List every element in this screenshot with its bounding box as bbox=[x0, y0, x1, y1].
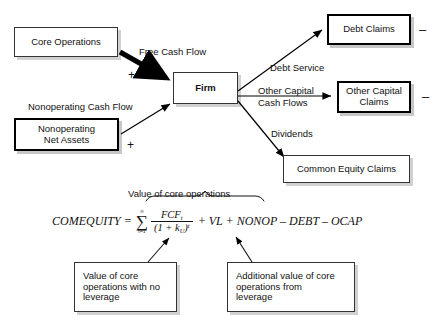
box-nonoperating-net-assets-line1: Nonoperating bbox=[38, 123, 95, 134]
formula-fraction: FCFt (1 + kU)t bbox=[151, 209, 193, 235]
box-common-equity-claims[interactable]: Common Equity Claims bbox=[283, 155, 410, 183]
arrow-debt-service bbox=[238, 30, 322, 91]
box-leverage-note-label: Additional value of core operations from… bbox=[236, 271, 335, 304]
caption-value-of-core-operations: Value of core operations bbox=[128, 188, 230, 199]
pointer-no-leverage bbox=[148, 238, 169, 262]
box-other-capital-claims-label: Other Capital Claims bbox=[346, 86, 402, 108]
box-other-capital-claims-line1: Other Capital bbox=[346, 85, 402, 96]
sign-minus-debt-claims: – bbox=[419, 22, 426, 37]
formula-equals: = bbox=[121, 214, 135, 229]
box-debt-claims-label: Debt Claims bbox=[343, 24, 395, 35]
label-other-capital-cash-flows-line1: Other Capital bbox=[258, 85, 314, 96]
box-common-equity-claims-label: Common Equity Claims bbox=[297, 164, 396, 175]
label-debt-service: Debt Service bbox=[270, 62, 324, 73]
box-leverage-note-line2: operations from bbox=[236, 281, 302, 292]
formula-comequity: COMEQUITY = ∞ ∑ t=1 FCFt (1 + kU)t + VL … bbox=[52, 209, 365, 235]
formula-numerator: FCFt bbox=[158, 209, 186, 221]
formula-numerator-text: FCF bbox=[161, 209, 181, 220]
formula-sum-lower: t=1 bbox=[138, 229, 145, 235]
box-leverage-note-line3: leverage bbox=[236, 291, 272, 302]
label-nonoperating-cash-flow: Nonoperating Cash Flow bbox=[28, 101, 133, 112]
sign-plus-nonoperating: + bbox=[127, 138, 134, 152]
formula-denominator-sup: t bbox=[188, 223, 190, 230]
box-leverage-note[interactable]: Additional value of core operations from… bbox=[227, 262, 355, 312]
box-debt-claims[interactable]: Debt Claims bbox=[327, 14, 411, 45]
box-core-operations-label: Core Operations bbox=[31, 37, 101, 48]
box-no-leverage-note-line2: operations with no bbox=[83, 281, 160, 292]
label-other-capital-cash-flows-line2: Cash Flows bbox=[258, 97, 308, 108]
box-firm[interactable]: Firm bbox=[173, 72, 238, 104]
figure-canvas: Core Operations Nonoperating Net Assets … bbox=[0, 0, 440, 335]
box-other-capital-claims-line2: Claims bbox=[359, 96, 388, 107]
formula-denominator-text: (1 + k bbox=[154, 222, 180, 233]
box-nonoperating-net-assets-label: Nonoperating Net Assets bbox=[38, 124, 95, 146]
box-no-leverage-note-line3: leverage bbox=[83, 291, 119, 302]
label-dividends: Dividends bbox=[271, 128, 313, 139]
sign-plus-core-operations: + bbox=[128, 68, 135, 82]
sign-minus-other-capital-claims: – bbox=[422, 89, 429, 104]
box-nonoperating-net-assets-line2: Net Assets bbox=[44, 134, 89, 145]
formula-denominator: (1 + kU)t bbox=[151, 221, 193, 234]
formula-sum-symbol: ∑ bbox=[136, 215, 148, 229]
pointer-leverage bbox=[236, 237, 252, 262]
formula-numerator-sub: t bbox=[181, 214, 183, 221]
formula-summation: ∞ ∑ t=1 bbox=[136, 209, 148, 234]
formula-lhs: COMEQUITY bbox=[52, 214, 121, 229]
box-leverage-note-line1: Additional value of core bbox=[236, 270, 335, 281]
box-no-leverage-note-label: Value of core operations with no leverag… bbox=[83, 271, 160, 304]
box-core-operations[interactable]: Core Operations bbox=[14, 27, 118, 57]
box-nonoperating-net-assets[interactable]: Nonoperating Net Assets bbox=[14, 118, 119, 151]
box-firm-label: Firm bbox=[195, 83, 216, 94]
faded-header-text bbox=[0, 0, 440, 10]
box-no-leverage-note[interactable]: Value of core operations with no leverag… bbox=[74, 262, 177, 312]
label-free-cash-flow: Free Cash Flow bbox=[139, 46, 206, 57]
box-other-capital-claims[interactable]: Other Capital Claims bbox=[337, 81, 411, 113]
box-no-leverage-note-line1: Value of core bbox=[83, 270, 138, 281]
formula-tail: + VL + NONOP – DEBT – OCAP bbox=[195, 214, 366, 229]
